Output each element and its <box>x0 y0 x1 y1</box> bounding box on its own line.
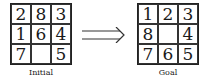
initial-cell: 5 <box>51 44 71 64</box>
initial-cell: 2 <box>11 4 31 24</box>
goal-cell: 3 <box>178 4 198 24</box>
goal-cell: 5 <box>178 44 198 64</box>
goal-cell: 6 <box>158 44 178 64</box>
goal-cell-blank <box>158 24 178 44</box>
initial-grid: 2 8 3 1 6 4 7 5 <box>10 3 72 65</box>
initial-cell: 8 <box>31 4 51 24</box>
goal-grid: 1 2 3 8 4 7 6 5 <box>137 3 199 65</box>
goal-state: 1 2 3 8 4 7 6 5 Goal <box>137 3 199 77</box>
goal-cell: 1 <box>138 4 158 24</box>
goal-caption: Goal <box>137 68 199 77</box>
goal-cell: 7 <box>138 44 158 64</box>
initial-cell: 3 <box>51 4 71 24</box>
initial-cell-blank <box>31 44 51 64</box>
goal-cell: 8 <box>138 24 158 44</box>
initial-cell: 4 <box>51 24 71 44</box>
initial-cell: 7 <box>11 44 31 64</box>
goal-cell: 4 <box>178 24 198 44</box>
goal-cell: 2 <box>158 4 178 24</box>
initial-caption: Initial <box>10 68 72 77</box>
initial-state: 2 8 3 1 6 4 7 5 Initial <box>10 3 72 77</box>
initial-cell: 6 <box>31 24 51 44</box>
double-right-arrow-icon <box>82 27 126 43</box>
initial-cell: 1 <box>11 24 31 44</box>
